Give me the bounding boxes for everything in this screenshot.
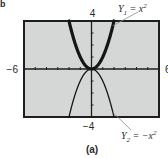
figure: b 4 −4 −6 6 Y1 = x2 Y2 = −x2 (a) [0,0,168,158]
window-ymin-label: −4 [83,121,95,132]
corner-label: b [0,0,6,9]
legend-y2-equation: Y2 = −x2 [121,129,157,144]
legend-y2-rest: = −x [130,130,153,141]
window-xmax-label: 6 [165,64,168,75]
figure-caption: (a) [86,144,98,155]
legend-y1-rest: = x [127,3,144,14]
window-ymax-label: 4 [90,8,96,19]
legend-y1-sup: 2 [143,2,147,10]
legend-y2-sup: 2 [153,129,157,137]
window-xmin-label: −6 [7,64,19,75]
